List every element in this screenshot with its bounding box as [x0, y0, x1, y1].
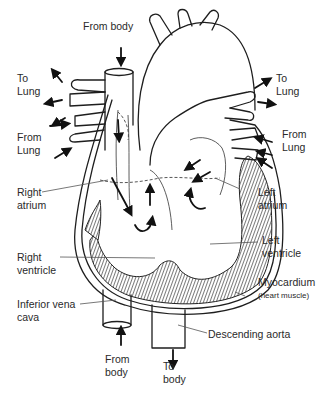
label-inferior-vena-cava-2: cava — [17, 311, 39, 324]
aorta-arch — [138, 22, 255, 150]
label-to-lung-left: To — [17, 72, 28, 85]
label-left-atrium: Left — [258, 186, 276, 199]
label-to-lung-right-2: Lung — [276, 85, 299, 98]
label-to-lung-left-2: Lung — [17, 85, 40, 98]
label-left-ventricle-2: ventricle — [262, 247, 301, 260]
label-from-lung-left: From — [17, 131, 42, 144]
label-descending-aorta: Descending aorta — [208, 328, 290, 341]
label-myocardium: Myocardium — [258, 276, 315, 289]
label-right-ventricle-2: ventricle — [17, 264, 56, 277]
label-from-lung-left-2: Lung — [17, 144, 40, 157]
label-from-body-top: From body — [83, 20, 133, 33]
heart-diagram: From body To Lung From Lung Right atrium… — [0, 0, 330, 397]
label-left-ventricle: Left — [262, 234, 280, 247]
label-from-lung-right-2: Lung — [282, 141, 305, 154]
label-right-atrium: Right — [17, 186, 42, 199]
label-right-atrium-2: atrium — [17, 199, 46, 212]
label-myocardium-note: (heart muscle) — [258, 291, 309, 301]
label-from-lung-right: From — [282, 128, 307, 141]
pulmonary-artery — [150, 92, 255, 165]
label-from-body-bottom-2: body — [105, 366, 128, 379]
label-to-body-bottom: To — [163, 360, 174, 373]
label-to-body-bottom-2: body — [163, 373, 186, 386]
label-inferior-vena-cava: Inferior vena — [17, 298, 75, 311]
label-left-atrium-2: atrium — [258, 199, 287, 212]
descending-aorta — [152, 305, 185, 348]
label-right-ventricle: Right — [17, 251, 42, 264]
label-from-body-bottom: From — [105, 353, 130, 366]
label-to-lung-right: To — [276, 72, 287, 85]
